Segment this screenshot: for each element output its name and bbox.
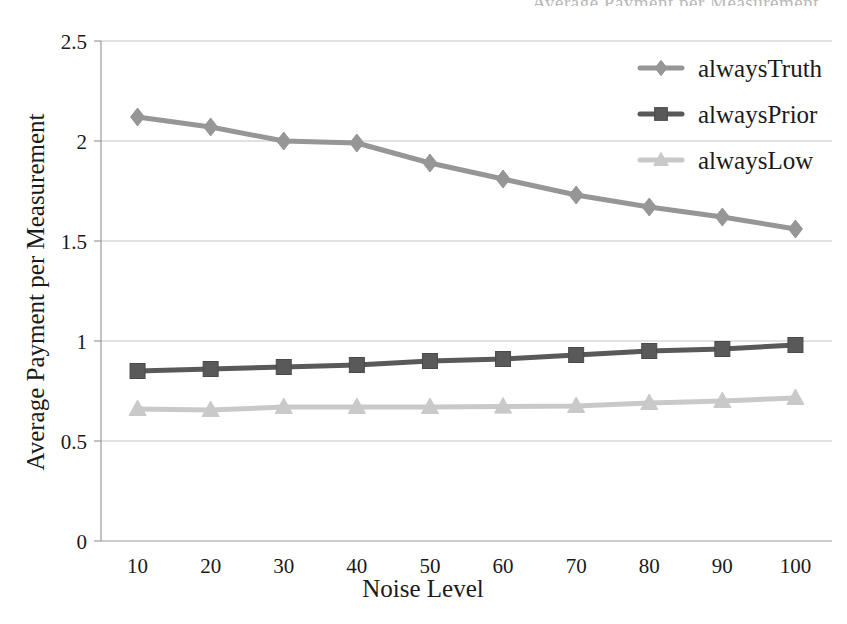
x-tick-label: 10 [127, 554, 148, 578]
x-tick-label: 90 [712, 554, 733, 578]
data-point-marker [422, 354, 437, 369]
legend-item-alwaysLow[interactable]: alwaysLow [640, 147, 813, 174]
data-point-marker [569, 186, 583, 204]
y-tick-label: 0 [77, 530, 88, 554]
data-point-marker [569, 348, 584, 363]
legend-item-alwaysTruth[interactable]: alwaysTruth [640, 55, 823, 82]
legend-label: alwaysLow [698, 147, 813, 174]
data-point-marker [788, 338, 803, 353]
data-point-marker [496, 352, 511, 367]
x-tick-label: 70 [566, 554, 587, 578]
data-point-marker [715, 342, 730, 357]
chart-legend: alwaysTruthalwaysPrioralwaysLow [640, 55, 823, 174]
data-point-marker [788, 220, 802, 238]
data-point-marker [496, 170, 510, 188]
data-point-marker [203, 362, 218, 377]
data-point-marker [655, 108, 668, 121]
y-tick-label: 2.5 [61, 30, 87, 54]
series-alwaysLow [129, 389, 804, 416]
y-axis-title: Average Payment per Measurement [22, 113, 49, 470]
x-tick-label: 60 [493, 554, 514, 578]
legend-label: alwaysPrior [698, 101, 818, 128]
line-chart: 00.511.522.5 102030405060708090100 alway… [0, 0, 847, 624]
data-point-marker [131, 108, 145, 126]
data-point-marker [715, 208, 729, 226]
axes-group [94, 41, 101, 541]
data-point-marker [655, 60, 667, 75]
legend-label: alwaysTruth [698, 55, 823, 82]
series-line [138, 345, 796, 371]
y-tick-label: 2 [77, 130, 88, 154]
data-point-marker [642, 344, 657, 359]
x-tick-label: 100 [780, 554, 812, 578]
x-tick-label: 30 [273, 554, 294, 578]
series-line [138, 117, 796, 229]
y-axis-tick-labels: 00.511.522.5 [61, 30, 87, 554]
data-point-marker [642, 198, 656, 216]
chart-figure: Average Payment per Measurement 00.511.5… [0, 0, 847, 624]
data-point-marker [130, 364, 145, 379]
data-point-marker [349, 358, 364, 373]
data-point-marker [277, 132, 291, 150]
data-point-marker [204, 118, 218, 136]
x-tick-label: 80 [639, 554, 660, 578]
x-tick-label: 20 [200, 554, 221, 578]
x-axis-title: Noise Level [362, 575, 484, 602]
data-point-marker [276, 360, 291, 375]
y-tick-label: 1 [77, 330, 88, 354]
series-line [138, 398, 796, 410]
data-point-marker [350, 134, 364, 152]
data-point-marker [423, 154, 437, 172]
y-tick-label: 0.5 [61, 430, 87, 454]
y-tick-label: 1.5 [61, 230, 87, 254]
legend-item-alwaysPrior[interactable]: alwaysPrior [640, 101, 818, 128]
series-alwaysPrior [130, 338, 803, 379]
